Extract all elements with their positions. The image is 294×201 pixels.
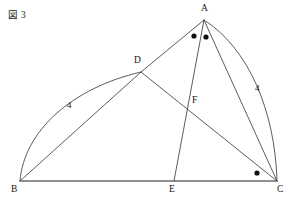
arc-BD-measure-label: 4 bbox=[67, 101, 72, 110]
segment-BD bbox=[20, 72, 141, 181]
segment-DA bbox=[141, 20, 204, 72]
vertex-label-C: C bbox=[277, 185, 283, 195]
angle-marker-BAE bbox=[191, 33, 196, 38]
arc-AC-measure-label: 4 bbox=[255, 84, 260, 93]
vertex-label-E: E bbox=[169, 185, 175, 195]
angle-marker-ACB bbox=[254, 170, 259, 175]
angle-marker-EAC bbox=[203, 34, 208, 39]
vertex-label-A: A bbox=[201, 4, 208, 14]
vertex-label-D: D bbox=[134, 56, 141, 66]
geometry-figure: 図 3 44ABCDEF bbox=[0, 0, 294, 201]
angle-markers-group bbox=[191, 33, 259, 175]
diagram-canvas bbox=[0, 0, 294, 201]
segment-AE bbox=[174, 20, 204, 181]
segment-AC bbox=[204, 20, 277, 181]
segments-group bbox=[20, 20, 277, 181]
vertex-label-F: F bbox=[192, 96, 197, 106]
vertex-label-B: B bbox=[11, 185, 17, 195]
arcs-group bbox=[20, 20, 277, 181]
